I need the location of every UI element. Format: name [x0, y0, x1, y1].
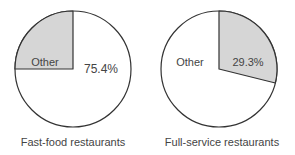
chart-caption-fast-food: Fast-food restaurants [21, 136, 126, 148]
pie-chart-full-service: Other 29.3% Full-service restaurants [161, 11, 280, 148]
slice-label-fast-food-main: 75.4% [84, 62, 118, 76]
chart-caption-full-service: Full-service restaurants [165, 136, 280, 148]
pie-charts-figure: Other 75.4% Fast-food restaurants Other … [0, 0, 295, 155]
slice-label-full-service-main: 29.3% [232, 56, 263, 68]
pie-chart-fast-food: Other 75.4% Fast-food restaurants [15, 11, 131, 148]
pie-charts-svg: Other 75.4% Fast-food restaurants Other … [0, 0, 295, 155]
slice-label-full-service-other: Other [176, 56, 204, 68]
slice-label-fast-food-other: Other [31, 56, 59, 68]
